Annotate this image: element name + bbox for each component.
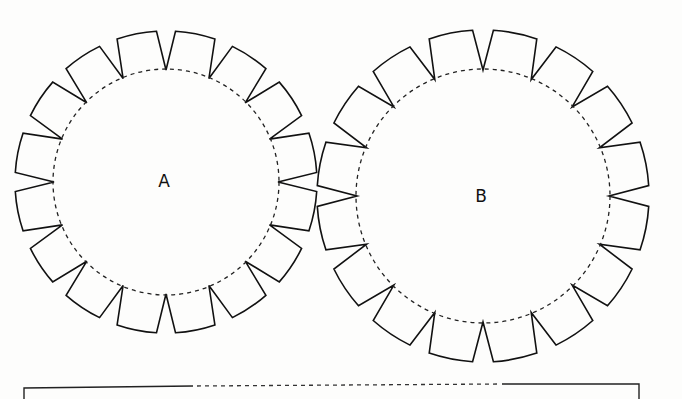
strip-piece bbox=[24, 384, 639, 399]
circle-piece-b: B bbox=[317, 30, 648, 361]
strip-fold-line bbox=[197, 384, 500, 386]
piece-label-b: B bbox=[475, 186, 487, 206]
piece-label-a: A bbox=[158, 171, 170, 191]
strip-left-edge bbox=[24, 386, 193, 399]
strip-right-edge bbox=[502, 384, 639, 399]
circle-piece-a: A bbox=[15, 31, 316, 332]
template-diagram: A B bbox=[0, 0, 682, 399]
